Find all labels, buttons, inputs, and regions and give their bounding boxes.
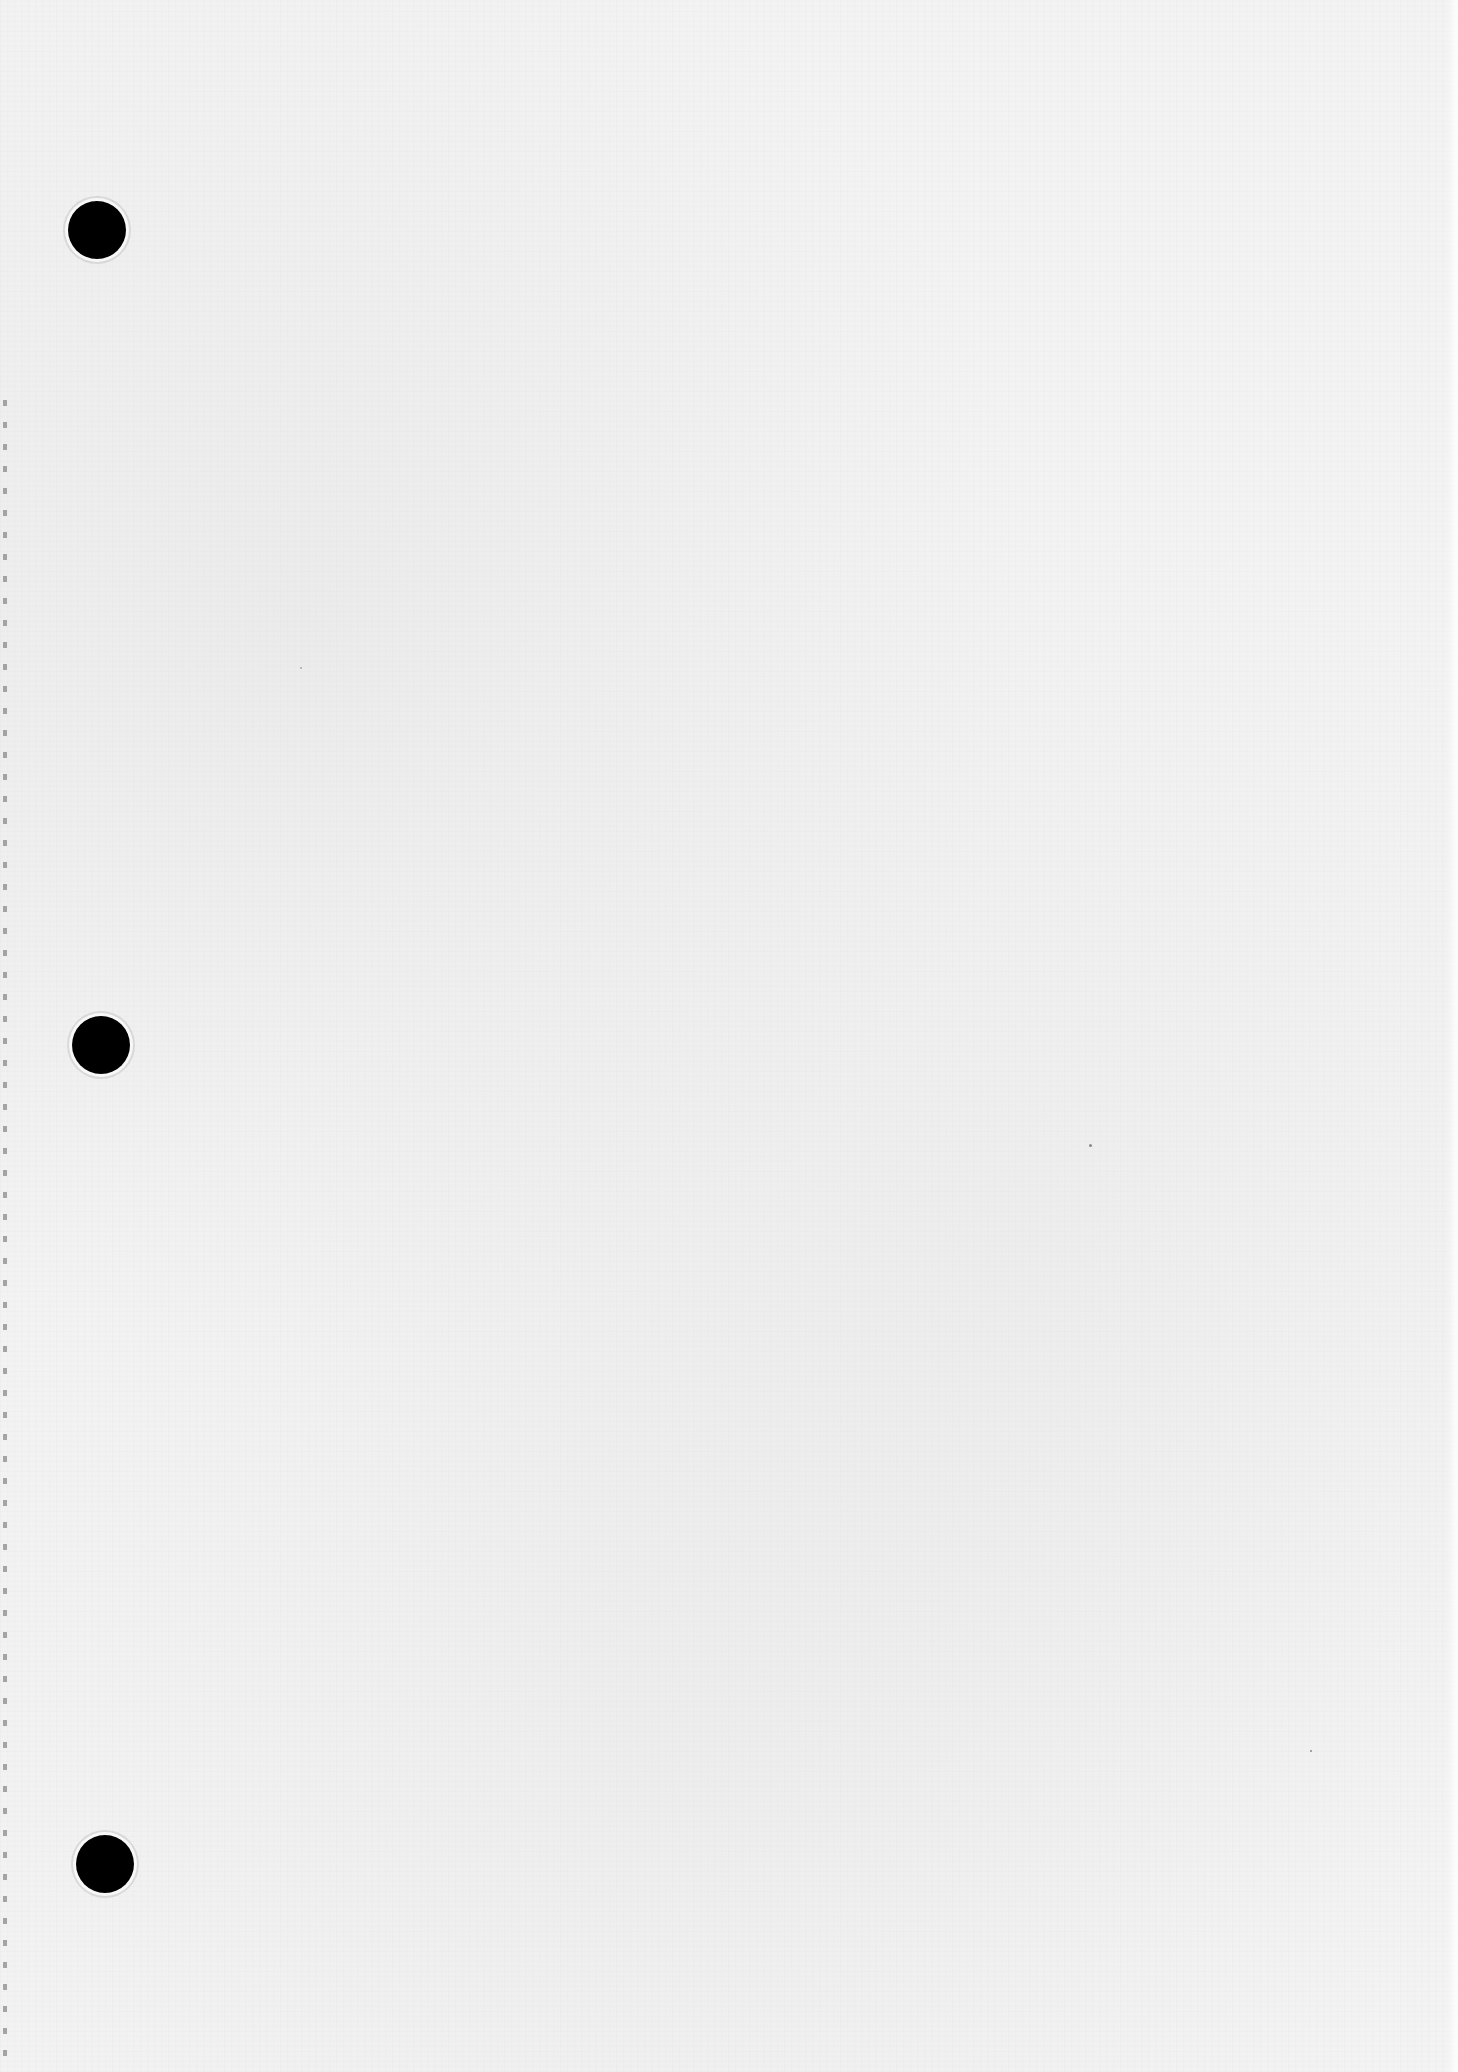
punch-hole-top: [68, 201, 126, 259]
perforated-left-edge: [3, 400, 7, 2072]
paper-speck: [300, 667, 302, 669]
punch-hole-bottom: [76, 1835, 134, 1893]
paper-right-edge: [1446, 0, 1458, 2072]
blank-paper-sheet: [0, 0, 1458, 2072]
paper-speck: [1089, 1144, 1092, 1147]
punch-hole-middle: [72, 1016, 130, 1074]
paper-speck: [1310, 1750, 1312, 1752]
